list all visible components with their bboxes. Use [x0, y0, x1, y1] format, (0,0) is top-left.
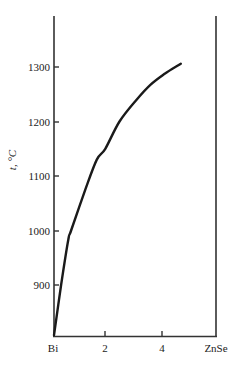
x-tick-znse: ZnSe [204, 342, 227, 354]
y-tick-1100: 1100 [28, 170, 50, 182]
x-ticks [105, 331, 162, 336]
y-tick-1000: 1000 [28, 225, 51, 237]
y-tick-900: 900 [34, 279, 51, 291]
x-tick-2: 2 [102, 342, 108, 354]
x-tick-bi: Bi [48, 342, 58, 354]
y-tick-1200: 1200 [28, 116, 51, 128]
phase-diagram-chart: 1300 1200 1100 1000 900 Bi 2 4 ZnSe t, °… [0, 0, 237, 367]
y-axis-label: t, °C [6, 149, 18, 170]
y-tick-1300: 1300 [28, 61, 51, 73]
liquidus-curve [54, 64, 181, 335]
x-tick-4: 4 [159, 342, 165, 354]
